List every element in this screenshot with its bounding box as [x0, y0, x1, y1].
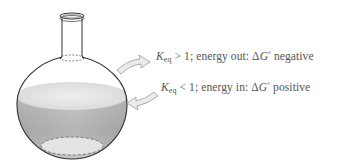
k-subscript: eq [164, 55, 172, 64]
g-symbol: G [260, 50, 268, 62]
energy-out-arrow [117, 55, 150, 74]
energy-in-arrow [127, 92, 158, 110]
sign-text: negative [271, 50, 314, 62]
energy-in-label: Keq < 1; energy in: ΔG° positive [161, 81, 310, 95]
k-symbol: K [161, 81, 169, 93]
g-symbol: G [259, 81, 267, 93]
sign-text: positive [270, 81, 310, 93]
liquid [10, 82, 140, 164]
flask-diagram: Keq > 1; energy out: ΔG° negative Keq < … [0, 0, 341, 164]
k-subscript: eq [169, 86, 177, 95]
relation-text: > 1; energy out: Δ [172, 50, 260, 62]
energy-out-label: Keq > 1; energy out: ΔG° negative [156, 50, 314, 64]
relation-text: < 1; energy in: Δ [177, 81, 259, 93]
k-symbol: K [156, 50, 164, 62]
